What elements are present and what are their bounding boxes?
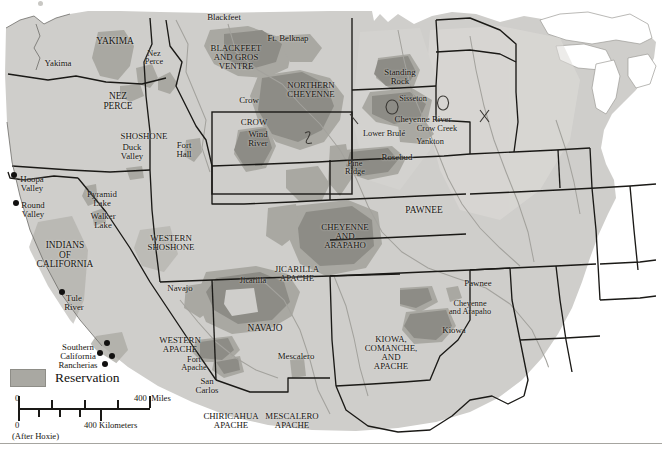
scale-tick-km-300 xyxy=(79,409,81,417)
scale-label-km-max: 400 Kilometers xyxy=(84,420,137,430)
scale-label-km-zero: 0 xyxy=(15,420,19,430)
scale-tick-mile-100 xyxy=(51,400,53,408)
bottom-divider xyxy=(0,443,662,444)
map-legend: Reservation xyxy=(10,368,250,388)
legend-swatch-reservation xyxy=(10,369,46,387)
legend-row: Reservation xyxy=(10,368,250,388)
legend-label-reservation: Reservation xyxy=(55,370,119,386)
source-credit: (After Hoxie) xyxy=(12,431,59,441)
scale-tick-mile-200 xyxy=(84,400,86,408)
scale-tick-km-100 xyxy=(38,409,40,417)
scale-bar: 0 400 Miles 0 400 Kilometers xyxy=(12,393,212,431)
scale-tick-mile-300 xyxy=(117,400,119,408)
map-figure: BlackfeetFt. BelknapYAKIMAYakimaNez Perc… xyxy=(0,0,662,449)
scale-label-miles-zero: 0 xyxy=(15,393,19,403)
top-corner-mark xyxy=(38,1,43,6)
scale-tick-km-200 xyxy=(59,409,61,417)
scale-label-miles-max: 400 Miles xyxy=(134,393,171,403)
